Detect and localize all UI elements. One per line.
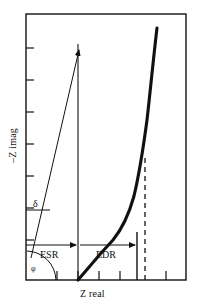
x-axis-ticks — [57, 271, 166, 280]
delta-angle-label: δ — [33, 198, 38, 209]
esr-label: ESR — [40, 249, 58, 260]
ideal-asymptote-arrow — [31, 50, 79, 258]
y-axis-label: –Z imag — [7, 116, 18, 176]
phi-angle-label: φ — [31, 264, 36, 273]
edr-label: EDR — [96, 249, 116, 260]
nyquist-plot-figure: –Z imag Z real ESR EDR δ φ — [0, 0, 199, 308]
plot-frame — [26, 14, 186, 280]
nyquist-plot-canvas — [0, 0, 199, 308]
x-axis-label: Z real — [80, 288, 105, 299]
y-axis-ticks — [26, 48, 34, 240]
